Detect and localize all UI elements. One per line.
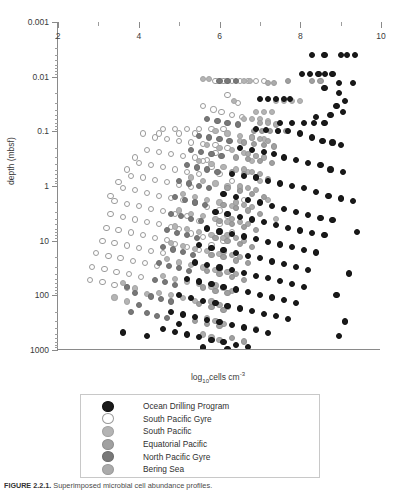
scatter-point — [277, 241, 283, 247]
scatter-point — [265, 120, 271, 126]
y-tick-minor — [55, 110, 59, 111]
scatter-point — [309, 230, 315, 236]
scatter-point — [350, 80, 356, 86]
scatter-point — [241, 224, 247, 230]
y-tick-minor — [55, 119, 59, 120]
scatter-point — [322, 71, 328, 77]
scatter-point — [269, 258, 275, 264]
scatter-point — [148, 248, 154, 254]
scatter-point — [190, 252, 196, 258]
scatter-point — [184, 126, 190, 132]
scatter-point — [184, 162, 190, 168]
scatter-point — [214, 118, 220, 124]
scatter-point — [329, 71, 335, 77]
y-tick-minor — [55, 287, 59, 288]
scatter-point — [265, 178, 271, 184]
scatter-point — [253, 327, 259, 333]
scatter-point — [237, 305, 243, 311]
scatter-point — [220, 254, 226, 260]
scatter-point — [160, 208, 166, 214]
scatter-point — [224, 346, 230, 349]
scatter-point — [196, 183, 202, 189]
scatter-point — [206, 134, 212, 140]
scatter-point — [249, 216, 255, 222]
y-tick-minor — [55, 93, 59, 94]
y-tick-minor — [55, 224, 59, 225]
scatter-point — [241, 78, 247, 84]
scatter-point — [233, 205, 239, 211]
scatter-point — [269, 160, 275, 166]
figure-caption: FIGURE 2.2.1. Superimposed microbial cel… — [4, 481, 396, 490]
scatter-point — [333, 292, 339, 298]
scatter-point — [99, 238, 105, 244]
scatter-point — [176, 178, 182, 184]
x-tick-major — [381, 22, 382, 28]
scatter-point — [301, 247, 307, 253]
scatter-point — [124, 166, 130, 172]
scatter-point — [124, 298, 130, 304]
scatter-point — [229, 171, 235, 177]
scatter-point — [124, 242, 130, 248]
scatter-point — [210, 106, 216, 112]
scatter-point — [172, 329, 178, 335]
y-tick-major — [52, 131, 58, 132]
scatter-point — [269, 203, 275, 209]
scatter-point — [297, 227, 303, 233]
scatter-point — [224, 78, 230, 84]
scatter-point — [176, 130, 182, 136]
scatter-point — [301, 284, 307, 290]
y-tick-minor — [55, 219, 59, 220]
scatter-point — [261, 142, 267, 148]
scatter-points-layer — [58, 22, 380, 349]
scatter-point — [245, 197, 251, 203]
scatter-point — [265, 275, 271, 281]
y-tick-label: 10 — [40, 236, 49, 246]
scatter-point — [216, 319, 222, 325]
scatter-point — [107, 193, 113, 199]
x-axis-title: log10cells cm-3 — [191, 371, 245, 384]
scatter-point — [188, 147, 194, 153]
legend-item-label: South Pacific Gyre — [143, 414, 212, 424]
y-tick-label: 1 — [44, 181, 49, 191]
x-tick-minor — [179, 22, 180, 26]
y-tick-minor — [55, 68, 59, 69]
scatter-point — [174, 230, 180, 236]
scatter-point — [237, 214, 243, 220]
scatter-point — [277, 278, 283, 284]
scatter-point — [241, 233, 247, 239]
scatter-point — [164, 227, 170, 233]
scatter-point — [132, 216, 138, 222]
legend-marker-icon — [102, 451, 114, 462]
y-tick-minor — [55, 71, 59, 72]
scatter-point — [115, 179, 121, 185]
y-tick-minor — [55, 129, 59, 130]
scatter-point — [321, 52, 327, 58]
scatter-point — [224, 120, 230, 126]
caption-label: FIGURE 2.2.1. — [4, 481, 51, 490]
scatter-point — [281, 297, 287, 303]
scatter-point — [253, 227, 259, 233]
y-tick-minor — [55, 170, 59, 171]
scatter-point — [126, 271, 132, 277]
scatter-point — [317, 78, 323, 84]
scatter-point — [144, 190, 150, 196]
scatter-point — [249, 308, 255, 314]
y-tick-minor — [55, 65, 59, 66]
scatter-point — [144, 310, 150, 316]
scatter-point — [271, 143, 277, 149]
scatter-point — [301, 185, 307, 191]
y-tick-minor — [55, 338, 59, 339]
scatter-point — [184, 331, 190, 337]
legend: Ocean Drilling ProgramSouth Pacific Gyre… — [80, 394, 320, 478]
scatter-point — [309, 78, 315, 84]
scatter-point — [99, 279, 105, 285]
legend-item: South Pacific Gyre — [81, 413, 319, 426]
scatter-point — [89, 264, 95, 270]
y-tick-minor — [55, 202, 59, 203]
scatter-point — [180, 249, 186, 255]
scatter-point — [247, 78, 253, 84]
scatter-point — [281, 261, 287, 267]
scatter-point — [178, 213, 184, 219]
scatter-point — [271, 80, 277, 86]
scatter-point — [188, 216, 194, 222]
